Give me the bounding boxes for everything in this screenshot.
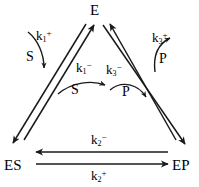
species-label-S-in: S [26,50,34,64]
rate-superscript: + [102,168,107,178]
rate-superscript: − [102,132,107,142]
curve-S-out [58,82,105,94]
rate-label-k3-plus: k3+ [152,31,168,46]
rate-label-k3-minus: k3− [106,63,122,78]
edge-E-to-EP [103,25,185,144]
rate-superscript: − [87,60,92,70]
rate-label-k2-plus: k2+ [91,169,107,184]
species-label-P-in: P [122,85,130,99]
scheme-vector-canvas [0,0,199,187]
node-label-E: E [90,3,99,18]
rate-superscript: − [117,62,122,72]
rate-superscript: + [163,30,168,40]
species-label-S-out: S [71,83,79,97]
rate-label-k1-minus: k1− [76,61,92,76]
node-label-ES: ES [4,158,22,173]
rate-label-k1-plus: k1+ [36,29,52,44]
rate-label-k2-minus: k2− [91,133,107,148]
node-label-EP: EP [172,158,190,173]
species-label-P-out: P [159,52,167,66]
rate-superscript: + [47,28,52,38]
reaction-scheme-diagram: E ES EP k1+ k1− k3+ k3− k2− k2+ S S P P [0,0,199,187]
